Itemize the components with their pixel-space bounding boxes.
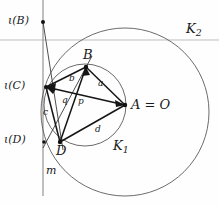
segment-D-to-A xyxy=(60,105,125,142)
label-circle-k2-letter: K xyxy=(186,21,196,36)
label-circle-k1-subscript: 1 xyxy=(123,144,129,155)
point-dot-B xyxy=(84,65,88,69)
label-point-D: D xyxy=(56,144,66,157)
label-point-A: A = O xyxy=(131,98,170,111)
label-circle-k2-subscript: 2 xyxy=(196,27,202,38)
point-dot-iotaB xyxy=(41,20,45,24)
point-dot-iotaD xyxy=(42,140,46,144)
segment-iotaC-to-A xyxy=(46,87,125,105)
label-segment-q: q xyxy=(62,96,68,105)
label-iota-B: ι(B) xyxy=(8,15,29,26)
label-segment-c: c xyxy=(43,108,48,117)
label-circle-k2: K2 xyxy=(186,22,202,37)
label-line-m: m xyxy=(46,165,56,176)
label-segment-d: d xyxy=(95,125,101,134)
label-iota-C: ι(C) xyxy=(4,80,25,91)
point-dot-A xyxy=(123,103,127,107)
label-iota-D: ι(D) xyxy=(4,134,26,145)
label-point-B: B xyxy=(83,48,93,61)
point-dot-iotaC xyxy=(44,85,48,89)
geometry-figure: ι(B) ι(C) ι(D) B D A = O K1 K2 m a b c d… xyxy=(0,0,219,205)
label-segment-a: a xyxy=(98,79,103,88)
label-circle-k1-letter: K xyxy=(113,138,123,153)
label-circle-k1: K1 xyxy=(113,139,129,154)
segment-B-to-A xyxy=(86,67,125,105)
label-segment-p: p xyxy=(78,97,84,106)
label-segment-b: b xyxy=(69,74,75,83)
